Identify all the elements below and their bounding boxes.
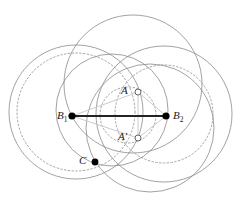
label-point-c: C [79, 155, 86, 166]
connector-b1-a [72, 92, 138, 116]
connector-b1-a-prime [72, 116, 138, 138]
point-c-marker [92, 159, 99, 166]
point-b1-marker [68, 112, 75, 119]
point-b2-marker [162, 112, 169, 119]
label-point-b2: B2 [173, 110, 183, 124]
circle-large-left [9, 45, 143, 179]
circle-large-top [64, 15, 202, 153]
label-point-a: A [121, 85, 128, 96]
point-a-prime-marker [135, 135, 141, 141]
label-point-b1: B1 [57, 110, 67, 124]
point-a-marker [135, 89, 141, 95]
label-point-a-prime: A′ [118, 131, 127, 142]
circles-layer [9, 15, 232, 192]
geometric-figure: B1 B2 A A′ C [0, 0, 242, 220]
figure-canvas [0, 0, 242, 220]
